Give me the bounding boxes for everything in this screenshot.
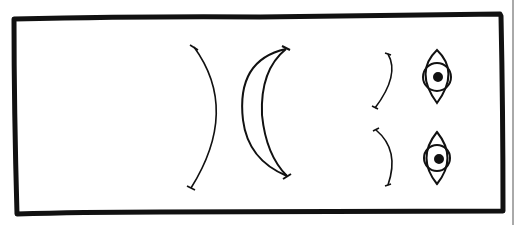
diagram-canvas bbox=[0, 0, 518, 225]
frame-border bbox=[14, 14, 503, 214]
eye-top-icon bbox=[423, 50, 451, 103]
small-arc-bottom-icon bbox=[373, 128, 392, 186]
concave-arc-icon bbox=[187, 45, 216, 190]
crescent-lens-icon bbox=[242, 46, 291, 179]
small-arc-top-icon bbox=[372, 53, 392, 109]
eye-bottom-icon bbox=[424, 132, 450, 184]
